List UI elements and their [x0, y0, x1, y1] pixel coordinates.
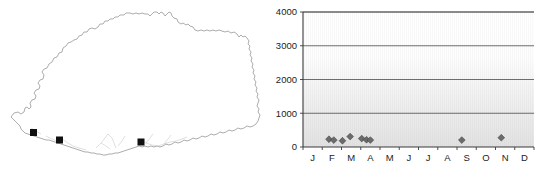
seasonality-scatter-svg: 01000200030004000 JFMAMJJASOND	[270, 0, 544, 171]
x-tick-label-S-8: S	[463, 152, 469, 163]
x-tick-label-A-7: A	[444, 152, 451, 163]
y-tick-label-2000: 2000	[276, 74, 297, 85]
y-tick-label-4000: 4000	[276, 6, 297, 17]
x-tick-label-F-1: F	[329, 152, 335, 163]
distribution-map-panel	[0, 0, 270, 171]
site-marker-1	[30, 129, 37, 136]
y-tick-label-3000: 3000	[276, 40, 297, 51]
x-tick-label-M-2: M	[347, 152, 355, 163]
x-tick-label-J-0: J	[310, 152, 315, 163]
figure-root: 01000200030004000 JFMAMJJASOND	[0, 0, 544, 171]
y-tick-label-1000: 1000	[276, 108, 297, 119]
x-tick-label-J-5: J	[407, 152, 412, 163]
x-tick-label-M-4: M	[386, 152, 394, 163]
site-marker-2	[56, 137, 63, 144]
site-marker-3	[138, 139, 145, 146]
bhutan-outline	[11, 12, 260, 155]
x-tick-labels: JFMAMJJASOND	[310, 152, 528, 163]
x-tick-label-D-11: D	[521, 152, 528, 163]
x-tick-label-A-3: A	[367, 152, 374, 163]
x-tick-label-J-6: J	[426, 152, 431, 163]
seasonality-chart-panel: 01000200030004000 JFMAMJJASOND	[270, 0, 544, 171]
y-tick-label-0: 0	[292, 141, 297, 152]
x-tick-label-O-9: O	[482, 152, 489, 163]
bhutan-map-svg	[0, 0, 270, 171]
x-tick-label-N-10: N	[502, 152, 509, 163]
y-tick-labels: 01000200030004000	[276, 6, 297, 152]
